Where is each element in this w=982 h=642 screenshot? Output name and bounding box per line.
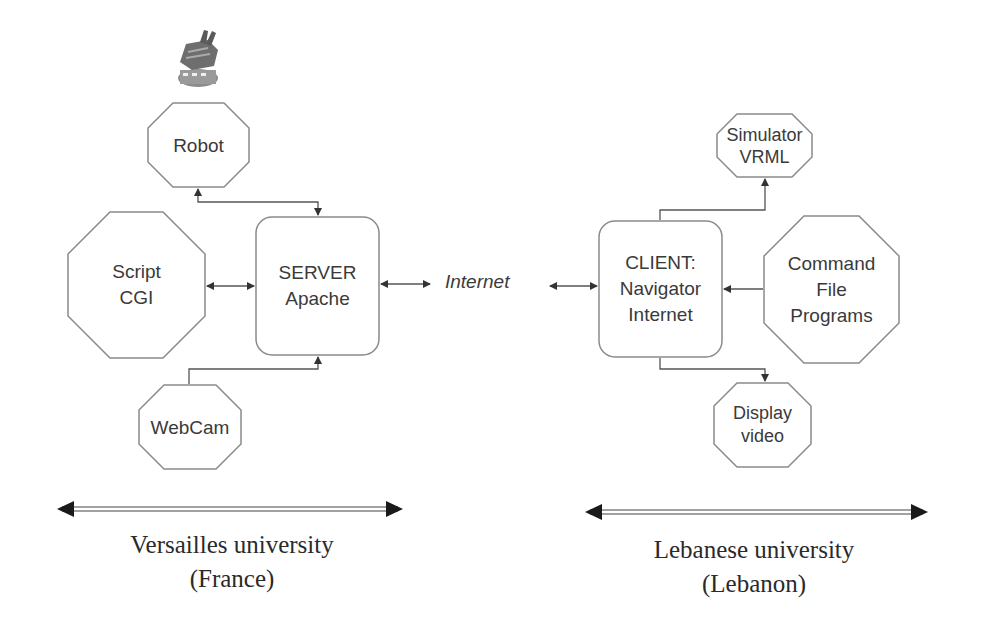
server-label-line1: SERVER bbox=[279, 260, 357, 286]
right-site-span-arrow bbox=[585, 504, 928, 520]
client-label-line2: Navigator bbox=[620, 276, 701, 302]
edge-client-display bbox=[660, 358, 765, 381]
left-site-name: Versailles university bbox=[82, 528, 382, 562]
server-node: SERVER Apache bbox=[256, 217, 379, 355]
script-cgi-node: Script CGI bbox=[68, 212, 205, 358]
simulator-node: Simulator VRML bbox=[717, 114, 812, 177]
left-site-country: (France) bbox=[82, 562, 382, 596]
left-site-span-arrow bbox=[57, 501, 403, 517]
edge-robot-server bbox=[198, 189, 318, 215]
display-label-line2: video bbox=[741, 425, 784, 448]
left-site-caption: Versailles university (France) bbox=[82, 528, 382, 596]
script-cgi-label-line2: CGI bbox=[120, 285, 154, 311]
simulator-label-line1: Simulator bbox=[726, 124, 802, 146]
right-site-country: (Lebanon) bbox=[604, 567, 904, 601]
command-label-line3: Programs bbox=[790, 303, 872, 329]
client-node: CLIENT: Navigator Internet bbox=[599, 221, 722, 357]
client-label-line1: CLIENT: bbox=[625, 250, 696, 276]
script-cgi-label-line1: Script bbox=[112, 259, 161, 285]
command-node: Command File Programs bbox=[764, 216, 899, 363]
right-site-caption: Lebanese university (Lebanon) bbox=[604, 533, 904, 601]
architecture-diagram: Robot Script CGI SERVER Apache WebCam In… bbox=[0, 0, 982, 642]
command-label-line2: File bbox=[816, 277, 847, 303]
right-site-name: Lebanese university bbox=[604, 533, 904, 567]
robot-label: Robot bbox=[173, 134, 224, 157]
display-node: Display video bbox=[714, 383, 811, 467]
robot-arm-icon bbox=[178, 30, 218, 87]
robot-node: Robot bbox=[148, 103, 249, 187]
webcam-node: WebCam bbox=[139, 385, 241, 469]
client-label-line3: Internet bbox=[628, 302, 692, 328]
edge-client-simulator bbox=[660, 179, 765, 220]
webcam-label: WebCam bbox=[151, 416, 230, 439]
command-label-line1: Command bbox=[788, 251, 876, 277]
internet-label: Internet bbox=[445, 271, 509, 293]
simulator-label-line2: VRML bbox=[739, 146, 789, 168]
server-label-line2: Apache bbox=[285, 286, 349, 312]
display-label-line1: Display bbox=[733, 402, 792, 425]
edge-webcam-server bbox=[189, 357, 318, 384]
